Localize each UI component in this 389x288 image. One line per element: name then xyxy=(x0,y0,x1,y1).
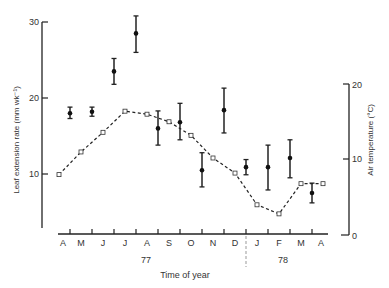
leaf-extension-point xyxy=(244,160,249,175)
leaf-extension-point xyxy=(90,107,95,116)
leaf-extension-point xyxy=(156,111,161,145)
leaf-extension-point xyxy=(222,88,227,133)
leaf-extension-point xyxy=(310,183,315,203)
month-label: O xyxy=(187,238,194,248)
x-axis: A M J J A S O N D J F M A 77 78 Time of … xyxy=(58,229,328,280)
leaf-extension-point xyxy=(288,140,293,178)
temperature-point xyxy=(277,212,281,216)
month-label: N xyxy=(210,238,217,248)
month-label: F xyxy=(276,238,282,248)
x-axis-title: Time of year xyxy=(160,270,210,280)
leaf-extension-point xyxy=(134,16,139,52)
month-label: A xyxy=(60,238,66,248)
temperature-line xyxy=(59,111,323,214)
leaf-extension-series xyxy=(68,16,315,203)
right-tick-20: 20 xyxy=(352,80,362,90)
right-axis-title: Air temperature (°C) xyxy=(366,104,375,176)
temperature-point xyxy=(79,150,83,154)
month-label: M xyxy=(297,238,305,248)
year-label-77: 77 xyxy=(141,255,151,265)
month-label: S xyxy=(166,238,172,248)
temperature-point xyxy=(255,203,259,207)
leaf-extension-point xyxy=(112,58,117,84)
month-label: J xyxy=(255,238,260,248)
air-temperature-series xyxy=(57,109,325,216)
temperature-point xyxy=(189,133,193,137)
left-tick-30: 30 xyxy=(29,17,39,27)
left-axis-title: Leaf extension rate (mm wk⁻¹) xyxy=(12,86,21,194)
temperature-point xyxy=(123,109,127,113)
temperature-point xyxy=(145,112,149,116)
temperature-point xyxy=(101,130,105,134)
left-tick-10: 10 xyxy=(29,169,39,179)
leaf-extension-point xyxy=(200,153,205,187)
leaf-extension-point xyxy=(68,107,73,118)
right-tick-10: 10 xyxy=(352,154,362,164)
temperature-point xyxy=(211,156,215,160)
month-label: J xyxy=(123,238,128,248)
month-label: A xyxy=(318,238,324,248)
temperature-point xyxy=(57,173,61,177)
left-y-axis: 30 20 10 Leaf extension rate (mm wk⁻¹) xyxy=(12,17,48,228)
month-label: D xyxy=(232,238,239,248)
month-label: A xyxy=(144,238,150,248)
year-label-78: 78 xyxy=(278,255,288,265)
month-label: M xyxy=(77,238,85,248)
leaf-extension-point xyxy=(266,145,271,190)
right-tick-0: 0 xyxy=(352,231,357,241)
left-tick-20: 20 xyxy=(29,93,39,103)
temperature-point xyxy=(233,171,237,175)
month-label: J xyxy=(101,238,106,248)
leaf-extension-temperature-chart: 30 20 10 Leaf extension rate (mm wk⁻¹) 2… xyxy=(0,0,389,288)
temperature-point xyxy=(321,182,325,186)
temperature-point xyxy=(299,182,303,186)
leaf-extension-point xyxy=(178,103,183,139)
temperature-point xyxy=(167,120,171,124)
right-y-axis: 20 10 0 Air temperature (°C) xyxy=(341,80,375,241)
